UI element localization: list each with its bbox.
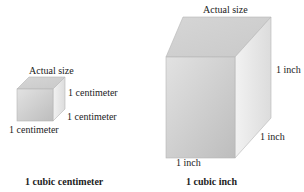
small-cube-bottom-label: 1 centimeter bbox=[9, 124, 59, 135]
large-cube-bottom-label: 1 inch bbox=[176, 157, 201, 168]
small-cube-top-label: Actual size bbox=[29, 65, 74, 76]
small-cube-depth-label: 1 centimeter bbox=[67, 111, 117, 122]
large-cube-caption: 1 cubic inch bbox=[186, 176, 237, 187]
small-cube-right-label: 1 centimeter bbox=[68, 87, 118, 98]
large-cube bbox=[166, 17, 271, 158]
large-cube-depth-label: 1 inch bbox=[260, 131, 285, 142]
large-cube-top-label: Actual size bbox=[203, 4, 248, 15]
small-cube-caption: 1 cubic centimeter bbox=[25, 176, 103, 187]
cube-diagram bbox=[0, 0, 304, 192]
small-cube bbox=[17, 77, 65, 121]
large-cube-right-label: 1 inch bbox=[276, 64, 301, 75]
